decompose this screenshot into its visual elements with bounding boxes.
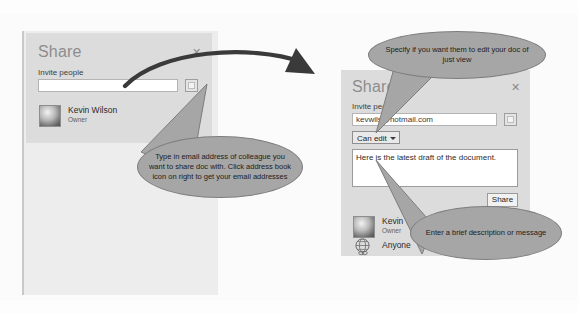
callout-permission-text: Specify if you want them to edit your do… — [369, 45, 545, 65]
callout-bubble: Enter a brief description or message — [410, 206, 562, 260]
left-person-name: Kevin Wilson — [68, 105, 117, 115]
callout-message: Enter a brief description or message — [410, 206, 562, 260]
callout-bubble: Specify if you want them to edit your do… — [368, 31, 546, 79]
callout-permission: Specify if you want them to edit your do… — [368, 31, 546, 79]
callout-message-text: Enter a brief description or message — [416, 228, 556, 238]
chevron-down-icon — [390, 137, 396, 140]
message-textarea[interactable] — [352, 149, 518, 187]
left-dialog-title: Share — [38, 43, 82, 61]
right-invite-people-input[interactable] — [352, 113, 497, 126]
address-book-icon[interactable] — [185, 79, 198, 92]
anyone-link-label: Anyone — [382, 240, 411, 250]
callout-bubble: Type in email address of colleague you w… — [137, 136, 303, 198]
right-person-role: Owner — [382, 227, 401, 234]
avatar-icon — [39, 105, 61, 127]
left-person-role: Owner — [68, 116, 87, 123]
left-invite-people-label: Invite people — [38, 68, 83, 77]
callout-invite-field-text: Type in email address of colleague you w… — [138, 152, 302, 182]
address-book-icon[interactable] — [504, 113, 517, 126]
permission-dropdown-value: Can edit — [357, 134, 387, 143]
callout-invite-field: Type in email address of colleague you w… — [137, 136, 303, 198]
left-invite-people-input[interactable] — [38, 79, 178, 92]
globe-link-icon — [353, 238, 375, 256]
left-dialog-close-button[interactable]: ✕ — [192, 46, 201, 59]
share-button[interactable]: Share — [487, 193, 518, 207]
avatar-icon — [353, 216, 375, 238]
screenshot-root: Share ✕ Invite people Kevin Wilson Owner… — [0, 0, 578, 314]
right-dialog-close-button[interactable]: ✕ — [511, 81, 520, 94]
